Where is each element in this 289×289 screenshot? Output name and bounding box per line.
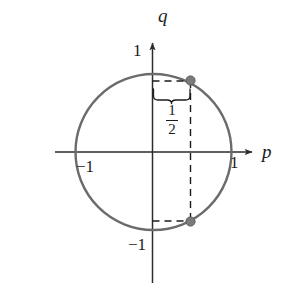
brace-measure-denominator: 2	[161, 122, 183, 138]
p-axis-tick-label-negative-one: −1	[76, 158, 94, 175]
brace-measure-numerator: 1	[161, 103, 183, 119]
point-upper	[186, 76, 195, 85]
q-axis-label: q	[158, 6, 168, 25]
p-axis-label: p	[262, 142, 272, 161]
unit-circle-figure: q p 1 −1 −1 1 1 2	[0, 0, 289, 289]
q-axis-tick-label-positive-one: 1	[133, 42, 142, 59]
p-axis-tick-label-positive-one: 1	[230, 154, 239, 171]
point-lower	[186, 217, 195, 226]
q-axis-tick-label-negative-one: −1	[128, 236, 146, 253]
brace-measure-label: 1 2	[161, 103, 183, 138]
